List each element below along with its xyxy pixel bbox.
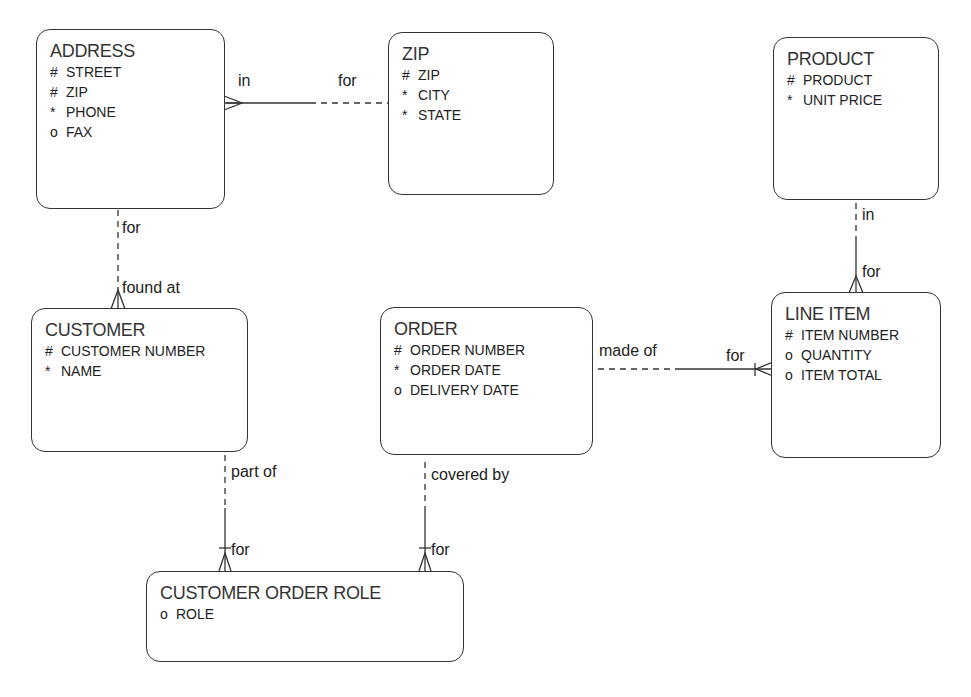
entity-title: LINE ITEM xyxy=(785,303,940,325)
entity-title: ORDER xyxy=(394,318,592,340)
relationship-address-zip xyxy=(224,96,388,110)
label-customer-role-part-of: part of xyxy=(231,463,276,481)
label-address-zip-in: in xyxy=(238,72,250,90)
attribute: *UNIT PRICE xyxy=(787,90,938,110)
attribute: *ORDER DATE xyxy=(394,360,592,380)
label-customer-role-for: for xyxy=(231,541,250,559)
entity-title: CUSTOMER ORDER ROLE xyxy=(160,582,463,604)
attribute: oDELIVERY DATE xyxy=(394,380,592,400)
entity-title: ADDRESS xyxy=(50,40,224,62)
label-product-lineitem-for: for xyxy=(862,263,881,281)
attribute: #ORDER NUMBER xyxy=(394,340,592,360)
attribute: #PRODUCT xyxy=(787,70,938,90)
attribute: oROLE xyxy=(160,604,463,624)
entity-line-item[interactable]: LINE ITEM #ITEM NUMBER oQUANTITY oITEM T… xyxy=(771,292,941,458)
label-order-lineitem-made-of: made of xyxy=(599,342,657,360)
entity-address[interactable]: ADDRESS #STREET #ZIP *PHONE oFAX xyxy=(36,29,225,209)
attribute: #ITEM NUMBER xyxy=(785,325,940,345)
label-address-customer-for: for xyxy=(122,219,141,237)
label-product-lineitem-in: in xyxy=(862,206,874,224)
attribute: *PHONE xyxy=(50,102,224,122)
label-address-zip-for: for xyxy=(338,72,357,90)
entity-order[interactable]: ORDER #ORDER NUMBER *ORDER DATE oDELIVER… xyxy=(380,307,593,455)
attribute: *NAME xyxy=(45,361,247,381)
entity-title: CUSTOMER xyxy=(45,319,247,341)
label-address-customer-found-at: found at xyxy=(122,279,180,297)
attribute: #CUSTOMER NUMBER xyxy=(45,341,247,361)
entity-title: PRODUCT xyxy=(787,48,938,70)
entity-product[interactable]: PRODUCT #PRODUCT *UNIT PRICE xyxy=(773,37,939,200)
relationship-order-role xyxy=(419,462,431,571)
relationship-product-lineitem xyxy=(849,203,863,293)
entity-customer-order-role[interactable]: CUSTOMER ORDER ROLE oROLE xyxy=(146,571,464,662)
entity-title: ZIP xyxy=(402,43,553,65)
attribute: #ZIP xyxy=(402,65,553,85)
label-order-role-for: for xyxy=(431,541,450,559)
attribute: *STATE xyxy=(402,105,553,125)
attribute: oQUANTITY xyxy=(785,345,940,365)
label-order-lineitem-for: for xyxy=(726,347,745,365)
attribute: oFAX xyxy=(50,122,224,142)
attribute: oITEM TOTAL xyxy=(785,365,940,385)
relationship-order-lineitem xyxy=(598,362,774,376)
entity-customer[interactable]: CUSTOMER #CUSTOMER NUMBER *NAME xyxy=(31,308,248,452)
attribute: #ZIP xyxy=(50,82,224,102)
attribute: #STREET xyxy=(50,62,224,82)
entity-zip[interactable]: ZIP #ZIP *CITY *STATE xyxy=(388,32,554,195)
label-order-role-covered-by: covered by xyxy=(431,466,509,484)
relationship-customer-role xyxy=(219,455,231,571)
attribute: *CITY xyxy=(402,85,553,105)
